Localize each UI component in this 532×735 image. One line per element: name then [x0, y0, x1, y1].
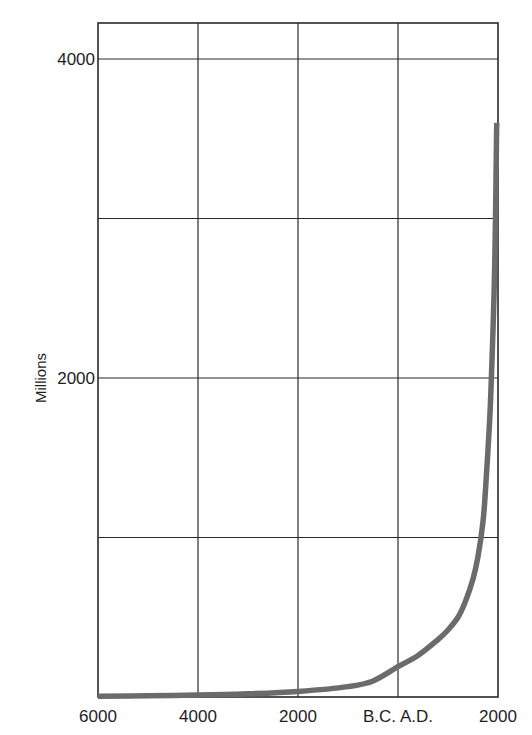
- y-axis-ticks: 20004000: [57, 50, 95, 388]
- x-tick-label: B.C. A.D.: [363, 707, 433, 726]
- population-chart: 20004000 600040002000B.C. A.D.2000 Milli…: [0, 0, 532, 735]
- y-axis-label: Millions: [32, 353, 49, 403]
- y-tick-label: 4000: [57, 50, 95, 69]
- x-tick-label: 6000: [79, 707, 117, 726]
- y-tick-label: 2000: [57, 369, 95, 388]
- x-tick-label: 4000: [179, 707, 217, 726]
- x-axis-ticks: 600040002000B.C. A.D.2000: [79, 707, 517, 726]
- x-tick-label: 2000: [479, 707, 517, 726]
- grid-lines: [98, 23, 498, 697]
- x-tick-label: 2000: [279, 707, 317, 726]
